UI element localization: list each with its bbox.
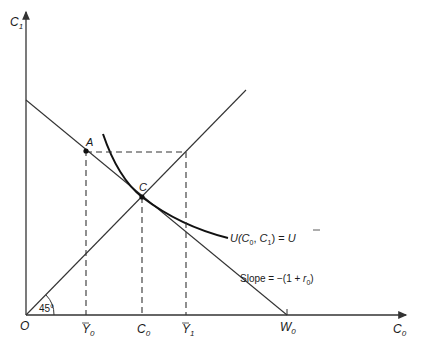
indifference-curve-label: U(C0, C1) = U [230, 232, 296, 246]
point-C [139, 194, 144, 199]
intertemporal-consumption-diagram: C1 C0 O A C 45° Y0 C0 Y1 W0 U(C0, C1) = … [0, 0, 421, 350]
tick-label-Y1: Y1 [182, 322, 194, 338]
x-axis-label: C0 [393, 322, 407, 338]
tick-label-C0: C0 [137, 322, 151, 338]
svg-text:Y1: Y1 [182, 322, 194, 338]
svg-text:W0: W0 [280, 320, 296, 336]
45-degree-line [26, 90, 246, 315]
tick-label-Y0: Y0 [82, 322, 95, 338]
svg-text:C0: C0 [137, 322, 151, 338]
point-A [83, 148, 88, 153]
svg-text:Y0: Y0 [82, 322, 95, 338]
slope-label: Slope = −(1 + r0) [240, 273, 314, 286]
y-axis-label: C1 [10, 15, 23, 31]
tick-label-W0: W0 [280, 320, 296, 336]
point-A-label: A [85, 136, 93, 148]
point-C-label: C [139, 181, 147, 193]
indifference-curve [103, 134, 228, 238]
angle-label: 45° [39, 303, 54, 314]
origin-label: O [20, 319, 29, 333]
